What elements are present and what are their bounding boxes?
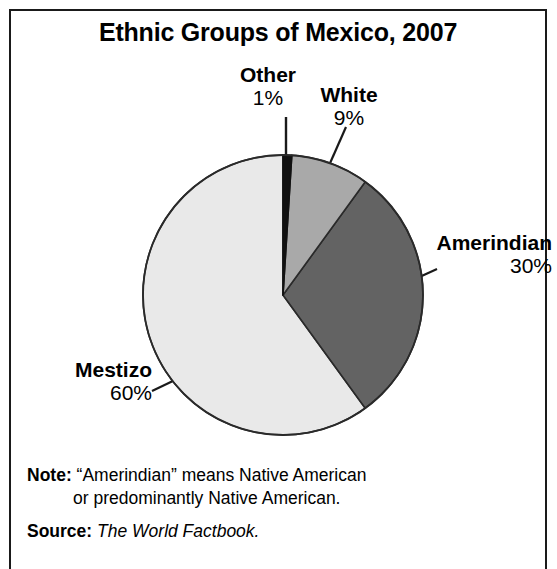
pie-label-other: Other 1% bbox=[222, 64, 314, 109]
pie-label-amerindian-value: 30% bbox=[424, 255, 552, 277]
pie-label-white: White 9% bbox=[307, 84, 391, 129]
pie-label-mestizo-value: 60% bbox=[40, 382, 152, 404]
pie-label-white-value: 9% bbox=[307, 107, 391, 129]
pie-label-other-value: 1% bbox=[222, 87, 314, 109]
pie-label-other-name: Other bbox=[222, 64, 314, 86]
note-text-line-1: “Amerindian” means Native American bbox=[77, 465, 367, 485]
pie-label-white-name: White bbox=[307, 84, 391, 106]
note-label: Note: bbox=[27, 465, 72, 485]
pie-label-mestizo-name: Mestizo bbox=[40, 359, 152, 381]
pie-label-amerindian: Amerindian 30% bbox=[424, 232, 552, 277]
figure-notes: Note: “Amerindian” means Native American… bbox=[27, 464, 527, 543]
source-text: The World Factbook. bbox=[97, 521, 259, 541]
pie-label-mestizo: Mestizo 60% bbox=[40, 359, 152, 404]
note-row-2: or predominantly Native American. bbox=[27, 487, 527, 510]
note-text-line-2: or predominantly Native American. bbox=[73, 488, 340, 508]
pie-label-amerindian-name: Amerindian bbox=[424, 232, 552, 254]
note-row-1: Note: “Amerindian” means Native American bbox=[27, 464, 527, 487]
source-label: Source: bbox=[27, 521, 92, 541]
source-row: Source: The World Factbook. bbox=[27, 520, 527, 543]
